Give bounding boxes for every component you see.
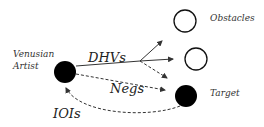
- artist-node: [54, 61, 76, 83]
- obstacles-label: Obstacles: [210, 13, 255, 23]
- obstacle-node-1: [174, 10, 196, 32]
- obstacle-node-2: [185, 48, 207, 70]
- dhvs-branch-up: [140, 41, 162, 61]
- dhvs-branch-mid: [140, 59, 173, 61]
- iois-label: IOIs: [53, 106, 81, 121]
- dhvs-branch-down: [140, 61, 167, 78]
- artist-label-line1: Venusian: [13, 49, 54, 59]
- artist-label-line2: Artist: [13, 61, 39, 71]
- negs-label: Negs: [110, 81, 144, 96]
- dhvs-label: DHVs: [88, 50, 126, 65]
- target-label: Target: [210, 88, 240, 98]
- target-node: [175, 85, 197, 107]
